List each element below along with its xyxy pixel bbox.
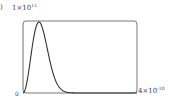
x-max-label: 4×10-10 [138, 87, 165, 95]
plot-frame [23, 21, 137, 93]
plot-area [0, 0, 171, 99]
x-max-base: 10 [148, 87, 157, 95]
distribution-curve [23, 22, 137, 93]
x-max-exp: -10 [157, 86, 164, 91]
origin-label: 0 [15, 90, 19, 97]
